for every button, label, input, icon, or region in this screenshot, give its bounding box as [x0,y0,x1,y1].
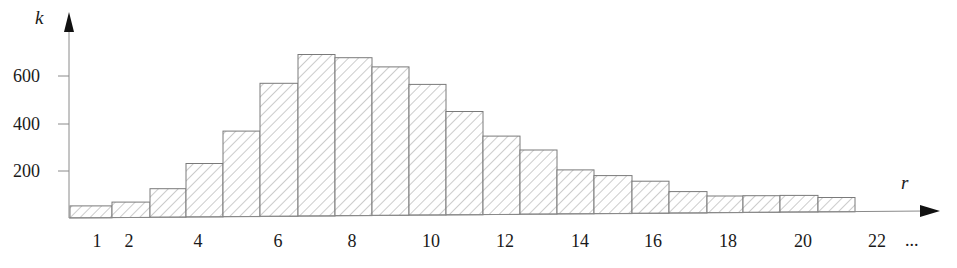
x-axis-label: r [901,172,909,193]
histogram-chart: k 600400200 r 1246810121416182022 ... [0,0,957,268]
bar-r-20 [780,195,818,212]
y-tick-label: 400 [13,114,40,134]
x-tick-label: 4 [194,231,203,251]
y-axis-label: k [35,7,44,28]
bar-r-2 [112,202,150,217]
bar-r-21 [818,198,855,212]
bar-r-6 [260,83,298,216]
bar-r-19 [743,196,780,213]
x-tick-label: 8 [348,231,357,251]
bar-r-3 [150,189,186,218]
bar-r-18 [707,196,743,213]
x-axis-ellipsis: ... [905,230,919,250]
bar-r-10 [409,84,446,215]
y-ticks: 600400200 [13,66,69,181]
x-tick-label: 6 [274,231,283,251]
x-tick-label: 1 [93,231,102,251]
bar-r-16 [632,181,669,213]
bar-r-14 [557,170,594,214]
x-tick-label: 22 [868,231,886,251]
x-axis-arrow-icon [920,205,940,217]
y-axis-arrow-icon [64,12,74,32]
x-ticks: 1246810121416182022 [93,231,887,251]
bar-r-9 [372,67,409,215]
bar-r-13 [520,150,557,214]
bar-r-11 [446,112,483,215]
bar-r-8 [335,58,372,216]
bar-r-5 [223,131,260,217]
bar-r-15 [594,176,632,214]
bar-r-4 [186,164,223,217]
x-tick-label: 18 [719,231,737,251]
bar-r-17 [669,192,707,213]
x-tick-label: 16 [644,231,662,251]
bar-r-12 [483,136,520,214]
x-tick-label: 10 [422,231,440,251]
bar-r-1 [70,206,112,218]
bar-r-7 [298,55,335,217]
y-tick-label: 200 [13,161,40,181]
x-tick-label: 14 [571,231,589,251]
y-tick-label: 600 [13,66,40,86]
x-tick-label: 12 [496,231,514,251]
x-tick-label: 2 [125,231,134,251]
x-tick-label: 20 [794,231,812,251]
bars-group [70,55,855,218]
